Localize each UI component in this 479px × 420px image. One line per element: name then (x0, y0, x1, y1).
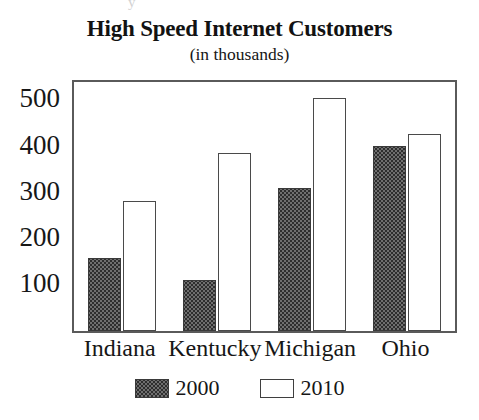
legend-label-2010: 2010 (301, 377, 345, 399)
x-tick-label-indiana: Indiana (84, 336, 156, 361)
bar-ohio-2000 (373, 146, 406, 331)
y-tick-label: 500 (20, 85, 61, 112)
y-axis: 100200300400500 (0, 80, 66, 333)
bar-michigan-2000 (278, 188, 311, 331)
plot-area (72, 80, 457, 333)
chart-title-block: High Speed Internet Customers (in thousa… (0, 16, 479, 64)
legend-item-2010[interactable]: 2010 (260, 377, 345, 399)
chart-title: High Speed Internet Customers (0, 16, 479, 42)
y-tick-label: 400 (20, 131, 61, 158)
y-tick-label: 300 (20, 177, 61, 204)
y-tick-label: 100 (20, 269, 61, 296)
chart-subtitle: (in thousands) (0, 44, 479, 64)
bar-kentucky-2000 (183, 280, 216, 331)
chart-legend: 20002010 (0, 377, 479, 399)
bar-michigan-2010 (313, 98, 346, 331)
y-tick-label: 200 (20, 223, 61, 250)
bar-indiana-2000 (88, 258, 121, 331)
x-tick-label-michigan: Michigan (264, 336, 356, 361)
legend-label-2000: 2000 (176, 377, 220, 399)
x-axis: IndianaKentuckyMichiganOhio (0, 336, 479, 368)
bar-kentucky-2010 (218, 153, 251, 331)
bar-ohio-2010 (408, 134, 441, 331)
legend-item-2000[interactable]: 2000 (135, 377, 220, 399)
x-tick-label-ohio: Ohio (381, 336, 429, 361)
scan-artifact-mark: y (128, 0, 136, 11)
bar-chart-figure: y High Speed Internet Customers (in thou… (0, 0, 479, 420)
x-tick-label-kentucky: Kentucky (168, 336, 261, 361)
bar-indiana-2010 (123, 201, 156, 331)
legend-swatch-2000 (135, 379, 169, 398)
legend-swatch-2010 (260, 379, 294, 398)
bars-container (74, 82, 455, 331)
